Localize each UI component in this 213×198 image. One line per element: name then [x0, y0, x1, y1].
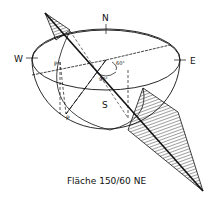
label-east: E	[190, 56, 196, 66]
label-south: S	[102, 100, 108, 110]
label-p-prime: P'	[54, 60, 60, 67]
label-angle-60: 60°	[116, 60, 125, 66]
strike-line	[45, 13, 203, 191]
figure-caption: Fläche 150/60 NE	[0, 176, 213, 186]
compass-ticks	[26, 24, 186, 60]
label-north: N	[102, 13, 109, 23]
hemisphere-diagram: N W E S P' P 60° 90° Fläche 150/60 NE	[0, 0, 213, 198]
label-p: P	[66, 114, 70, 121]
label-angle-90: 90°	[99, 76, 108, 82]
diagram-drawing: N W E S P' P 60° 90°	[0, 0, 213, 198]
label-west: W	[14, 54, 23, 64]
